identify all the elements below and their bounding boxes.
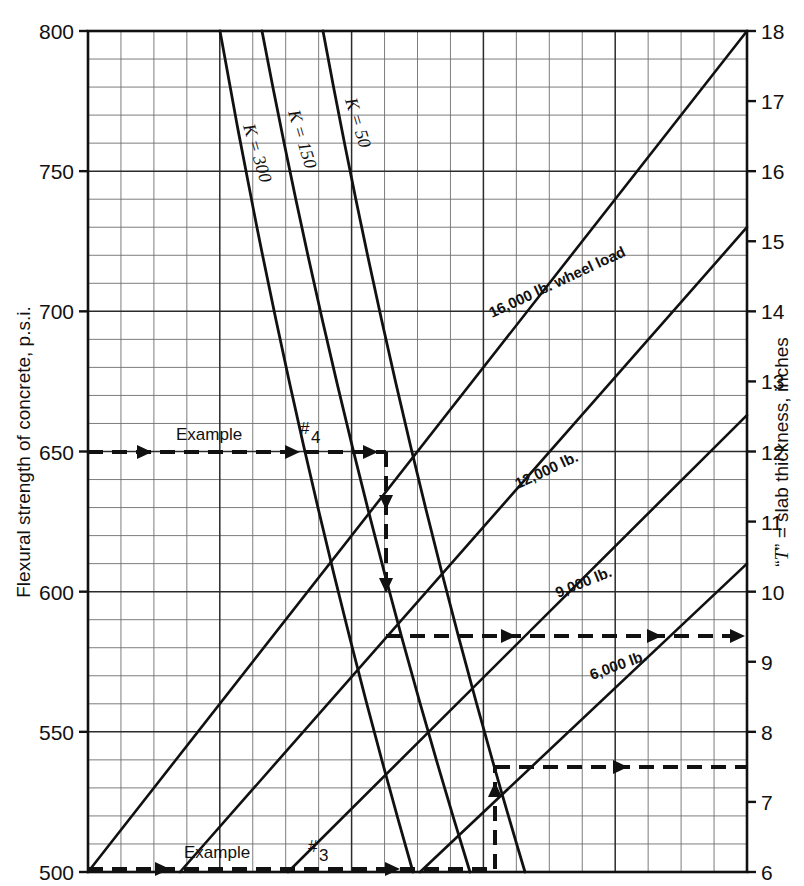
right-tick-label-16: 16 <box>761 160 784 183</box>
right-tick-label-8: 8 <box>761 721 773 744</box>
example-4-hash: # <box>300 419 310 438</box>
example-4-text: Example <box>176 425 242 444</box>
left-tick-label-750: 750 <box>39 160 74 183</box>
example-4-number: 4 <box>311 428 320 447</box>
left-tick-label-800: 800 <box>39 20 74 43</box>
example-3-hash: # <box>308 837 318 856</box>
example-3-text: Example <box>184 843 250 862</box>
right-axis-title-rest: ” = slab thickness, inches <box>771 337 792 550</box>
right-tick-label-9: 9 <box>761 651 773 674</box>
left-tick-label-550: 550 <box>39 721 74 744</box>
right-tick-label-6: 6 <box>761 861 773 884</box>
left-tick-label-600: 600 <box>39 581 74 604</box>
right-tick-label-14: 14 <box>761 300 785 323</box>
nomograph-figure: 800750700650600550500 181716151413121110… <box>0 0 804 886</box>
nomograph-svg: 800750700650600550500 181716151413121110… <box>0 0 804 886</box>
right-axis-title: “T” = slab thickness, inches <box>771 337 792 567</box>
left-tick-label-500: 500 <box>39 861 74 884</box>
right-tick-label-18: 18 <box>761 20 784 43</box>
left-axis-title: Flexural strength of concrete, p.s.i. <box>13 306 34 597</box>
left-tick-label-700: 700 <box>39 300 74 323</box>
example-3-number: 3 <box>319 846 328 865</box>
left-tick-label-650: 650 <box>39 441 74 464</box>
right-tick-label-17: 17 <box>761 90 784 113</box>
right-tick-label-15: 15 <box>761 230 784 253</box>
right-tick-label-10: 10 <box>761 581 784 604</box>
right-tick-label-7: 7 <box>761 791 773 814</box>
